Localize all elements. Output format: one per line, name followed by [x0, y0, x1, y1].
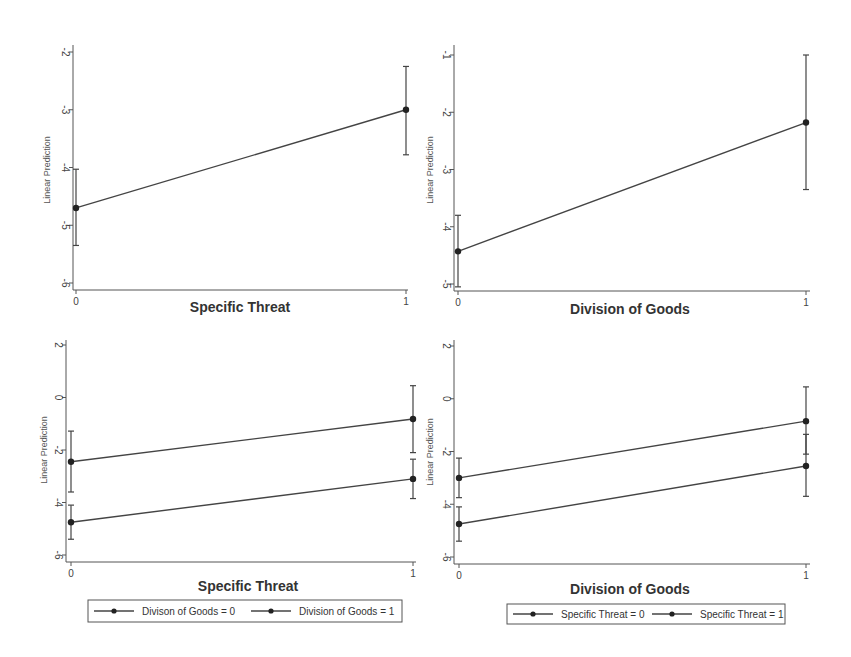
y-axis-title: Linear Prediction	[425, 418, 435, 486]
y-tick-label: -3	[60, 105, 71, 114]
y-tick-label: -2	[53, 446, 64, 455]
y-tick-label: -2	[60, 48, 71, 57]
y-axis-title: Linear Prediction	[42, 136, 52, 204]
data-point	[456, 475, 462, 481]
figure-canvas: -2-3-4-5-601Linear PredictionSpecific Th…	[0, 0, 851, 657]
legend-label: Specific Threat = 1	[700, 609, 784, 620]
y-tick-label: 2	[441, 343, 452, 349]
x-tick-label: 1	[410, 568, 416, 579]
data-point	[68, 519, 74, 525]
x-axis-title: Division of Goods	[570, 301, 690, 317]
x-axis-title: Division of Goods	[570, 581, 690, 597]
y-tick-label: -4	[53, 498, 64, 507]
y-tick-label: -4	[60, 163, 71, 172]
y-tick-label: -4	[441, 500, 452, 509]
x-tick-label: 0	[455, 297, 461, 308]
panel-top-left: -2-3-4-5-601Linear PredictionSpecific Th…	[42, 45, 409, 315]
y-tick-label: -5	[60, 221, 71, 230]
panel-bottom-left: 20-2-4-601Linear PredictionSpecific Thre…	[39, 340, 416, 622]
x-tick-label: 1	[803, 297, 809, 308]
series-line	[71, 479, 413, 522]
series-line	[459, 466, 806, 524]
y-axis-title: Linear Prediction	[39, 416, 49, 484]
y-tick-label: 0	[53, 395, 64, 401]
legend-label: Specific Threat = 0	[561, 609, 645, 620]
legend: Specific Threat = 0Specific Threat = 1	[507, 604, 785, 624]
x-tick-label: 0	[456, 570, 462, 581]
legend-marker-icon	[669, 611, 674, 616]
y-tick-label: 0	[441, 396, 452, 402]
legend-label: Division of Goods = 1	[299, 606, 395, 617]
data-point	[803, 418, 809, 424]
y-tick-label: -4	[441, 222, 452, 231]
y-tick-label: -1	[441, 51, 452, 60]
legend-marker-icon	[530, 611, 535, 616]
data-point	[455, 248, 461, 254]
data-point	[456, 521, 462, 527]
legend: Divison of Goods = 0Division of Goods = …	[88, 600, 402, 622]
x-tick-label: 0	[73, 296, 79, 307]
legend-label: Divison of Goods = 0	[142, 606, 236, 617]
series-line	[458, 123, 806, 252]
y-tick-label: -6	[60, 279, 71, 288]
y-tick-label: -3	[441, 165, 452, 174]
y-tick-label: -2	[441, 447, 452, 456]
panel-bottom-right: 20-2-4-601Linear PredictionDivision of G…	[425, 340, 810, 624]
legend-marker-icon	[111, 608, 116, 613]
data-point	[68, 459, 74, 465]
y-axis-title: Linear Prediction	[425, 136, 435, 204]
x-tick-label: 0	[68, 568, 74, 579]
panel-top-right: -1-2-3-4-501Linear PredictionDivision of…	[425, 45, 810, 317]
series-line	[71, 419, 413, 462]
data-point	[803, 119, 809, 125]
y-tick-label: -2	[441, 108, 452, 117]
data-point	[410, 476, 416, 482]
x-tick-label: 1	[803, 570, 809, 581]
x-axis-title: Specific Threat	[198, 578, 299, 594]
data-point	[410, 416, 416, 422]
data-point	[73, 205, 79, 211]
x-axis-title: Specific Threat	[190, 299, 291, 315]
y-tick-label: -5	[441, 280, 452, 289]
series-line	[459, 421, 806, 478]
y-tick-label: 2	[53, 342, 64, 348]
y-tick-label: -6	[53, 551, 64, 560]
x-tick-label: 1	[403, 296, 409, 307]
series-line	[76, 110, 406, 208]
data-point	[403, 107, 409, 113]
data-point	[803, 463, 809, 469]
y-tick-label: -6	[441, 553, 452, 562]
legend-marker-icon	[268, 608, 273, 613]
